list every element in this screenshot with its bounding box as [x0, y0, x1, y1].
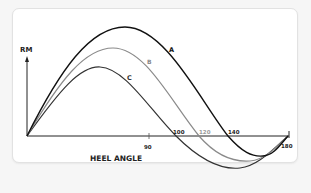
y-axis-arrow-icon	[25, 56, 29, 62]
tick-label-120: 120	[199, 129, 211, 135]
curve-b	[27, 48, 288, 161]
x-axis-label: HEEL ANGLE	[90, 154, 142, 163]
tick-label-180: 180	[281, 143, 293, 149]
curve-label-a: A	[169, 46, 174, 54]
curve-label-c: C	[127, 74, 132, 82]
righting-moment-chart: RM HEEL ANGLE A B C 90 100 120 140 180	[0, 0, 311, 193]
curve-a	[27, 27, 288, 156]
curve-label-b: B	[147, 58, 152, 65]
tick-label-140: 140	[228, 129, 240, 135]
tick-label-100: 100	[173, 129, 185, 135]
tick-label-90: 90	[144, 144, 152, 150]
y-axis-label: RM	[20, 46, 32, 54]
